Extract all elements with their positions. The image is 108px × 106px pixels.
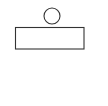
diagram-canvas [0,0,108,106]
circle-shape [44,8,60,24]
diagram-svg [0,0,108,106]
rectangle-shape [16,28,85,50]
